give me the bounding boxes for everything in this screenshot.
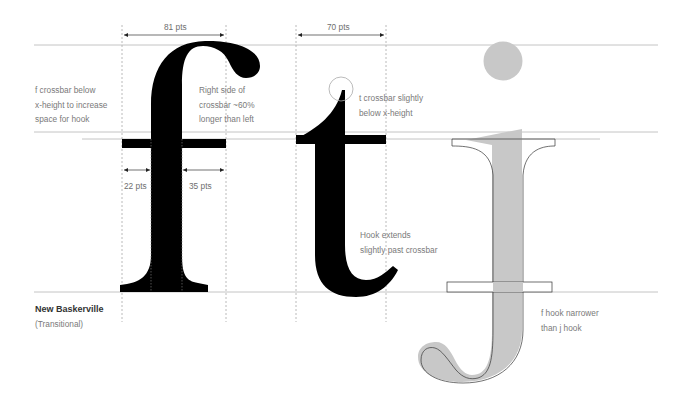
j-dot — [484, 42, 523, 81]
f-right-side-note: Right side of crossbar ~60% longer than … — [199, 83, 255, 127]
f-crossbar-right-label: 35 pts — [189, 181, 212, 191]
diagram-canvas — [0, 0, 692, 410]
typography-diagram: 81 pts 70 pts 22 pts 35 pts f crossbar b… — [0, 0, 692, 410]
j-hook-note: f hook narrower than j hook — [541, 306, 599, 335]
guidelines — [34, 45, 658, 292]
t-hook-note: Hook extends slightly past crossbar — [360, 228, 437, 257]
t-width-label: 70 pts — [327, 22, 350, 32]
glyph-j — [418, 42, 555, 384]
typeface-classification: (Transitional) — [35, 319, 83, 329]
f-crossbar-note: f crossbar below x-height to increase sp… — [35, 83, 107, 127]
f-crossbar-left-label: 22 pts — [124, 181, 147, 191]
glyph-f — [120, 41, 260, 292]
glyph-t — [296, 90, 398, 297]
t-crossbar-note: t crossbar slightly below x-height — [359, 91, 423, 120]
typeface-name: New Baskerville — [35, 304, 104, 314]
f-width-label: 81 pts — [164, 22, 187, 32]
